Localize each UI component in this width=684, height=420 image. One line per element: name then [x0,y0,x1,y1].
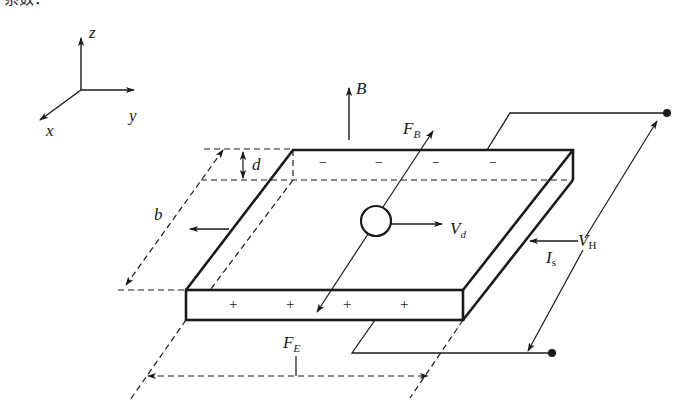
svg-text:+: + [400,296,408,312]
x-axis [40,90,81,120]
b-label: b [154,205,163,224]
coordinate-axes [40,38,134,120]
d-label: d [252,155,261,174]
x-axis-label: x [45,121,54,140]
svg-text:−: − [489,155,497,170]
svg-text:+: + [343,296,351,312]
charge-carrier [361,206,391,236]
hall-effect-diagram: 系数： z y x d b FE VH [0,0,684,420]
negative-charges: − − − − [319,155,497,170]
svg-text:+: + [286,296,294,312]
vh-label: VH [578,231,596,251]
svg-text:−: − [432,155,440,170]
fb-label: FB [402,119,420,140]
b-field-label: B [356,79,367,98]
header-fragment: 系数： [4,0,49,8]
lower-terminal [548,349,556,357]
fe-label: FE [282,333,300,354]
fb-arrow [383,131,433,207]
vd-label: Vd [450,219,466,240]
dimension-lines [118,149,573,400]
upper-terminal [663,109,671,117]
z-axis-label: z [88,23,96,42]
svg-text:−: − [319,155,327,170]
svg-text:+: + [229,296,237,312]
y-axis-label: y [127,106,137,125]
b-dimension-line [126,150,223,285]
vh-arrow-up [585,121,657,238]
upper-wire [487,113,667,150]
svg-text:−: − [375,155,383,170]
slab-front-face [186,290,463,320]
lower-wire [352,320,552,353]
is-label: Is [545,248,556,268]
